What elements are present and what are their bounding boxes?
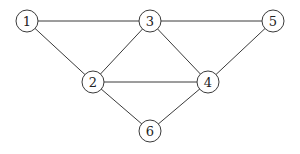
nodes-layer: 123456: [16, 10, 284, 142]
node-6: 6: [139, 120, 161, 142]
graph-diagram: 123456: [0, 0, 300, 154]
node-label: 1: [23, 14, 31, 29]
node-5: 5: [262, 10, 284, 32]
edges-layer: [27, 21, 273, 131]
edge-2-3: [93, 21, 150, 82]
node-2: 2: [82, 71, 104, 93]
edge-4-5: [208, 21, 273, 82]
node-1: 1: [16, 10, 38, 32]
node-label: 2: [89, 75, 97, 90]
node-3: 3: [139, 10, 161, 32]
node-label: 6: [146, 124, 154, 139]
node-label: 3: [146, 14, 154, 29]
node-4: 4: [197, 71, 219, 93]
edge-1-2: [27, 21, 93, 82]
node-label: 4: [204, 75, 212, 90]
edge-3-4: [150, 21, 208, 82]
node-label: 5: [269, 14, 277, 29]
